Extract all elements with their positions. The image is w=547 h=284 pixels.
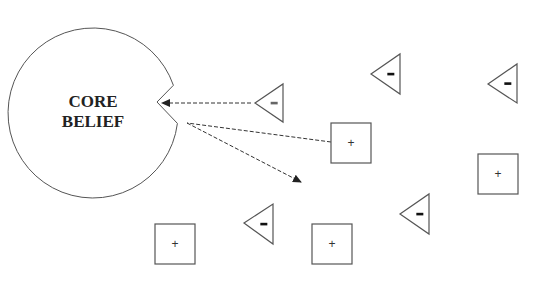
belief-shapes: ++++ (155, 54, 518, 264)
core-label-line2: BELIEF (62, 112, 124, 131)
core-label-line1: CORE (68, 92, 117, 111)
positive-square: + (312, 224, 352, 264)
minus-sign-icon (260, 223, 267, 226)
diagram-canvas: CORE BELIEF ++++ (0, 0, 547, 284)
positive-square: + (331, 123, 371, 163)
core-belief-node: CORE BELIEF (8, 28, 177, 198)
triangle-shape (488, 64, 517, 103)
positive-square: + (478, 154, 518, 194)
plus-sign-icon: + (494, 167, 501, 181)
negative-triangle (400, 194, 429, 234)
triangle-shape (255, 84, 283, 122)
arrows (162, 103, 331, 182)
plus-sign-icon: + (328, 237, 335, 251)
negative-triangle (255, 84, 283, 122)
positive-square: + (155, 224, 195, 264)
negative-triangle (244, 204, 273, 244)
minus-sign-icon (504, 82, 511, 85)
negative-triangle (371, 54, 400, 94)
influence-arrow-3 (187, 123, 301, 182)
negative-triangle (488, 64, 517, 103)
minus-sign-icon (271, 102, 278, 105)
triangle-shape (371, 54, 400, 94)
plus-sign-icon: + (347, 136, 354, 150)
triangle-shape (400, 194, 429, 234)
minus-sign-icon (416, 213, 423, 216)
minus-sign-icon (387, 73, 394, 76)
triangle-shape (244, 204, 273, 244)
plus-sign-icon: + (171, 237, 178, 251)
influence-arrow-2 (187, 123, 331, 142)
core-belief-diagram: CORE BELIEF ++++ (0, 0, 547, 284)
